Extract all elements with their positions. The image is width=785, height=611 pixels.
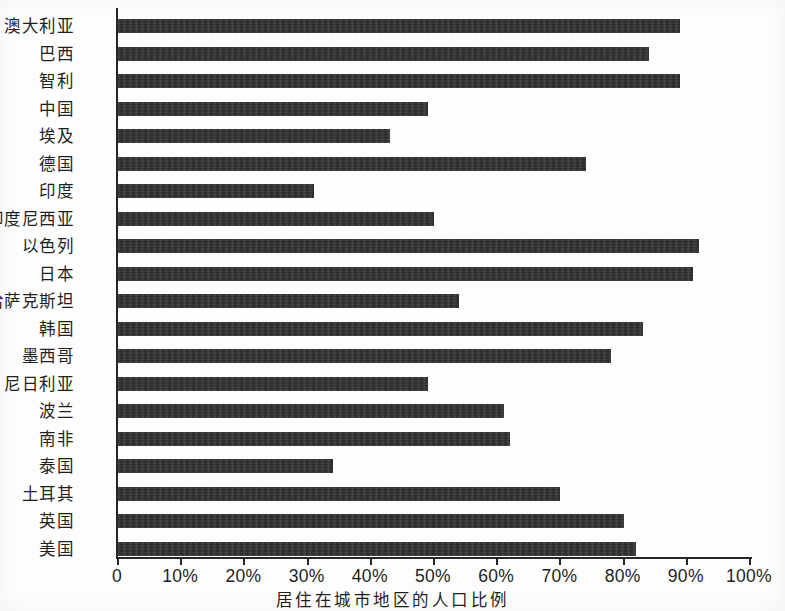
- bar-row: 澳大利亚: [118, 14, 750, 42]
- x-axis-tick-mark: [117, 557, 119, 565]
- bar: [118, 514, 624, 528]
- bar: [118, 459, 333, 473]
- bar: [118, 102, 428, 116]
- y-axis-category-label: 中国: [0, 99, 74, 119]
- y-axis-category-label: 巴西: [0, 44, 74, 64]
- y-axis-category-label: 波兰: [0, 401, 74, 421]
- bar-row: 土耳其: [118, 482, 750, 510]
- bar-row: 智利: [118, 69, 750, 97]
- bar-row: 巴西: [118, 42, 750, 70]
- y-axis-category-label: 泰国: [0, 456, 74, 476]
- y-axis-category-label: 埃及: [0, 126, 74, 146]
- bar: [118, 212, 434, 226]
- x-axis-title: 居住在城市地区的人口比例: [0, 587, 785, 611]
- y-axis-category-label: 德国: [0, 154, 74, 174]
- bar: [118, 74, 680, 88]
- x-axis-tick-mark: [243, 557, 245, 565]
- y-axis-category-label: 以色列: [0, 236, 74, 256]
- x-axis-tick-mark: [559, 557, 561, 565]
- x-axis-tick-mark: [749, 557, 751, 565]
- x-axis-tick-mark: [433, 557, 435, 565]
- bar-row: 英国: [118, 509, 750, 537]
- y-axis-category-label: 智利: [0, 71, 74, 91]
- bar-row: 中国: [118, 97, 750, 125]
- bar-row: 日本: [118, 262, 750, 290]
- bar: [118, 19, 680, 33]
- x-axis-tick-mark: [686, 557, 688, 565]
- bar: [118, 377, 428, 391]
- bar: [118, 404, 504, 418]
- bar-row: 尼日利亚: [118, 372, 750, 400]
- bar-row: 南非: [118, 427, 750, 455]
- bar: [118, 129, 390, 143]
- bar-row: 哈萨克斯坦: [118, 289, 750, 317]
- y-axis-category-label: 印度尼西亚: [0, 209, 74, 229]
- bar: [118, 157, 586, 171]
- bar-chart: 澳大利亚巴西智利中国埃及德国印度印度尼西亚以色列日本哈萨克斯坦韩国墨西哥尼日利亚…: [0, 0, 785, 611]
- bar-row: 韩国: [118, 317, 750, 345]
- y-axis-category-label: 土耳其: [0, 484, 74, 504]
- bar: [118, 267, 693, 281]
- y-axis-category-label: 印度: [0, 181, 74, 201]
- bar: [118, 184, 314, 198]
- bar: [118, 239, 699, 253]
- x-axis-tick-mark: [496, 557, 498, 565]
- bar-row: 泰国: [118, 454, 750, 482]
- y-axis-category-label: 日本: [0, 264, 74, 284]
- bar: [118, 432, 510, 446]
- bar-row: 墨西哥: [118, 344, 750, 372]
- bar: [118, 487, 560, 501]
- x-axis-tick-mark: [370, 557, 372, 565]
- y-axis-category-label: 澳大利亚: [0, 16, 74, 36]
- bar-row: 以色列: [118, 234, 750, 262]
- y-axis-category-label: 哈萨克斯坦: [0, 291, 74, 311]
- y-axis-category-label: 美国: [0, 539, 74, 559]
- y-axis-category-label: 墨西哥: [0, 346, 74, 366]
- bar: [118, 542, 636, 556]
- y-axis-category-label: 韩国: [0, 319, 74, 339]
- plot-area: 澳大利亚巴西智利中国埃及德国印度印度尼西亚以色列日本哈萨克斯坦韩国墨西哥尼日利亚…: [118, 8, 750, 558]
- y-axis-category-label: 英国: [0, 511, 74, 531]
- x-axis-tick-label: 100%: [704, 566, 785, 587]
- bar: [118, 322, 643, 336]
- bar-row: 印度尼西亚: [118, 207, 750, 235]
- bar-row: 印度: [118, 179, 750, 207]
- x-axis-tick-mark: [307, 557, 309, 565]
- y-axis-category-label: 南非: [0, 429, 74, 449]
- bar: [118, 47, 649, 61]
- x-axis-tick-mark: [623, 557, 625, 565]
- bar-row: 德国: [118, 152, 750, 180]
- bar: [118, 294, 459, 308]
- bar-row: 埃及: [118, 124, 750, 152]
- bar-row: 波兰: [118, 399, 750, 427]
- x-axis-tick-mark: [180, 557, 182, 565]
- bar: [118, 349, 611, 363]
- y-axis-category-label: 尼日利亚: [0, 374, 74, 394]
